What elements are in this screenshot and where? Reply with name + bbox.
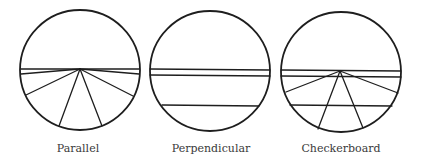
panel-label-checkerboard: Checkerboard [301, 142, 380, 155]
panel-perpendicular: Perpendicular [150, 11, 270, 155]
chord-line [290, 105, 392, 106]
chord-line [80, 69, 102, 126]
chord-line [162, 105, 259, 106]
chord-line [318, 71, 340, 129]
chord-line [340, 71, 398, 93]
line-group [21, 69, 139, 126]
chord-line [281, 76, 401, 77]
chord-line [150, 75, 270, 76]
circle-outline [150, 11, 270, 131]
panel-label-parallel: Parallel [57, 142, 100, 155]
line-group [281, 70, 401, 129]
panel-label-perpendicular: Perpendicular [172, 142, 251, 155]
chord-line [340, 71, 363, 128]
panel-checkerboard: Checkerboard [281, 12, 401, 155]
chord-line [150, 69, 270, 70]
diagram-canvas: Parallel Perpendicular Checkerboard [0, 0, 421, 161]
line-group [150, 69, 270, 106]
chord-line [286, 71, 340, 92]
panel-parallel: Parallel [20, 10, 140, 155]
